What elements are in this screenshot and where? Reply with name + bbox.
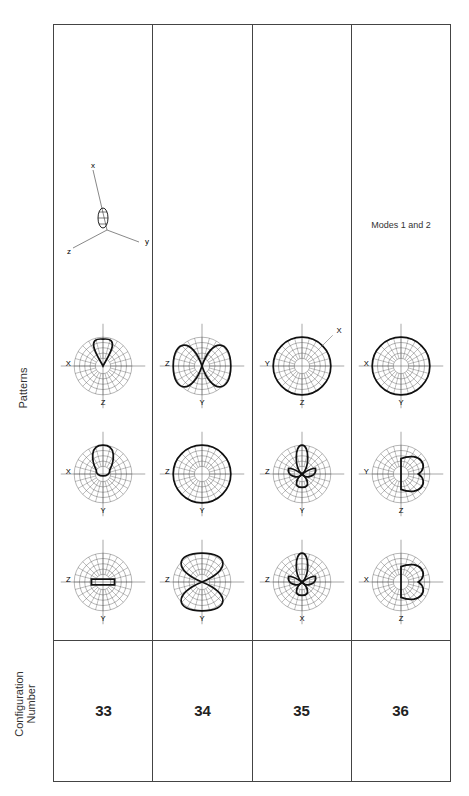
svg-text:X: X — [364, 359, 369, 368]
column-header-configuration-number: Configuration Number — [13, 669, 37, 739]
radiation-pattern-plot: ZY — [55, 530, 151, 634]
svg-text:X: X — [364, 575, 369, 584]
svg-text:Z: Z — [165, 467, 170, 476]
header-line-2: Number — [25, 669, 37, 739]
svg-text:Y: Y — [200, 398, 205, 407]
svg-text:Y: Y — [101, 614, 106, 623]
svg-text:X: X — [66, 359, 71, 368]
svg-text:Y: Y — [398, 398, 403, 407]
svg-text:Y: Y — [364, 467, 369, 476]
configuration-table-page: 33ZYXYXZ x y z 34ZYZYZY35ZXZYYZX36XZYZXY… — [53, 24, 451, 782]
radiation-pattern-plot: XZ — [55, 314, 151, 418]
configuration-number-cell: 33 — [54, 641, 153, 782]
patterns-cell: ZYXYXZ x y z — [54, 25, 153, 641]
svg-text:Z: Z — [265, 575, 270, 584]
svg-text:Z: Z — [101, 398, 106, 407]
configuration-number-cell: 34 — [153, 641, 252, 782]
table-row: 33ZYXYXZ x y z — [54, 25, 153, 782]
radiation-pattern-plot: XY — [353, 314, 449, 418]
svg-text:Z: Z — [399, 506, 404, 515]
svg-text:X: X — [66, 467, 71, 476]
configuration-number: 36 — [393, 703, 410, 720]
table-row: 35ZXZYYZX — [252, 25, 351, 782]
configuration-number: 35 — [293, 703, 310, 720]
svg-text:y: y — [145, 237, 149, 246]
table-row: 34ZYZYZY — [153, 25, 252, 782]
svg-text:X: X — [299, 614, 304, 623]
svg-text:Z: Z — [165, 575, 170, 584]
configuration-number: 33 — [95, 703, 112, 720]
radiation-pattern-plot: ZY — [254, 422, 350, 526]
extra-diagram: x y z — [55, 140, 151, 310]
svg-text:Z: Z — [299, 398, 304, 407]
svg-text:Z: Z — [265, 467, 270, 476]
svg-text:Z: Z — [66, 575, 71, 584]
svg-text:Z: Z — [399, 614, 404, 623]
radiation-pattern-plot: ZY — [154, 314, 250, 418]
header-line-1: Configuration — [13, 669, 25, 739]
3d-axes-diagram: x y z — [55, 150, 151, 300]
configuration-number: 34 — [194, 703, 211, 720]
configuration-number-cell: 35 — [252, 641, 351, 782]
svg-text:z: z — [67, 247, 71, 256]
patterns-cell: ZYZYZY — [153, 25, 252, 641]
radiation-pattern-plot: YZ — [353, 422, 449, 526]
svg-text:x: x — [91, 161, 95, 170]
patterns-cell: ZXZYYZX — [252, 25, 351, 641]
radiation-pattern-plot: ZY — [154, 530, 250, 634]
svg-text:X: X — [336, 326, 341, 335]
svg-text:Y: Y — [265, 359, 270, 368]
column-header-patterns: Patterns — [17, 365, 29, 411]
svg-text:Y: Y — [101, 506, 106, 515]
radiation-pattern-plot: YZX — [254, 314, 350, 418]
svg-text:Y: Y — [200, 614, 205, 623]
modes-note-text: Modes 1 and 2 — [371, 220, 431, 230]
radiation-pattern-plot: XY — [55, 422, 151, 526]
radiation-pattern-plot: ZY — [154, 422, 250, 526]
radiation-pattern-plot: XZ — [353, 530, 449, 634]
modes-note: Modes 1 and 2 — [353, 140, 449, 310]
svg-text:Y: Y — [299, 506, 304, 515]
patterns-cell: XZYZXYModes 1 and 2 — [351, 25, 450, 641]
configuration-number-cell: 36 — [351, 641, 450, 782]
table-row: 36XZYZXYModes 1 and 2 — [351, 25, 450, 782]
svg-text:Z: Z — [165, 359, 170, 368]
configuration-table: 33ZYXYXZ x y z 34ZYZYZY35ZXZYYZX36XZYZXY… — [53, 24, 451, 782]
svg-text:Y: Y — [200, 506, 205, 515]
radiation-pattern-plot: ZX — [254, 530, 350, 634]
